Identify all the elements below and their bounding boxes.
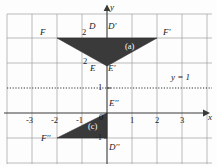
x-tick-label-minus-2: -2 <box>51 116 58 125</box>
x-tick-label-zero: 0 <box>99 113 103 122</box>
y-tick-label-2-lower: 2 <box>83 57 87 66</box>
point-label-E-prime: E' <box>108 64 115 73</box>
x-tick-label-3: 3 <box>180 116 184 125</box>
x-tick-label-2: 2 <box>155 116 159 125</box>
y-axis-name: y <box>110 3 114 12</box>
region-label-c: (c) <box>88 122 97 131</box>
x-tick-label-minus-3: -3 <box>26 116 33 125</box>
figure-canvas: F D D' F' E E' (a) (c) E'' F'' D'' y = 1… <box>0 0 217 166</box>
point-label-D-double-prime: D'' <box>109 143 119 152</box>
point-label-F: F <box>40 28 46 37</box>
y-tick-label-2-upper: 2 <box>82 28 86 37</box>
x-tick-label-1: 1 <box>130 116 134 125</box>
point-label-E-double-prime: E'' <box>109 99 118 108</box>
region-label-a: (a) <box>125 42 134 51</box>
point-label-F-prime: F' <box>163 28 170 37</box>
y-tick-label-minus-1: -1 <box>95 133 102 142</box>
x-tick-label-minus-1: -1 <box>76 116 83 125</box>
point-label-D-prime: D' <box>108 22 116 31</box>
point-label-E: E <box>90 64 96 73</box>
y-tick-label-1: 1 <box>98 83 102 92</box>
equation-label-y-equals-1: y = 1 <box>171 73 190 82</box>
x-axis-name: x <box>208 113 212 122</box>
point-label-D: D <box>89 22 96 31</box>
point-label-F-double-prime: F'' <box>41 134 50 143</box>
triangle-a-shape <box>57 38 157 66</box>
